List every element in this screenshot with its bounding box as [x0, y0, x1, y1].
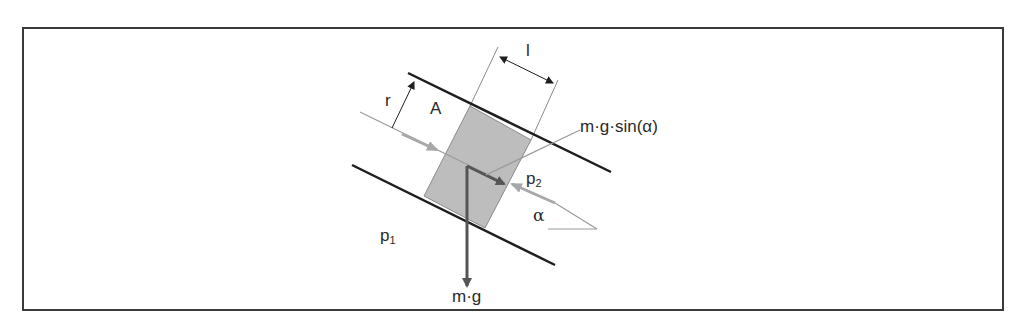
length-extension-left — [470, 47, 498, 106]
weight-label: m·g — [452, 288, 481, 305]
area-label: A — [430, 100, 441, 117]
pipe-force-diagram — [0, 0, 1014, 331]
pressure-upstream-arrow — [402, 134, 437, 150]
length-label: l — [526, 42, 530, 59]
pressure-upstream-label: p1 — [380, 227, 396, 246]
tangential-force-label: m·g·sin(α) — [580, 118, 658, 135]
pressure-downstream-label: p2 — [526, 170, 542, 189]
radius-dimension-arrow — [392, 82, 414, 128]
angle-reference-inclined — [555, 203, 597, 229]
length-dimension-arrow — [500, 57, 553, 83]
pressure-downstream-subscript: 2 — [535, 177, 541, 189]
angle-label: α — [533, 207, 544, 224]
pressure-upstream-subscript: 1 — [389, 234, 395, 246]
length-extension-right — [531, 80, 558, 140]
radius-label: r — [385, 92, 391, 109]
